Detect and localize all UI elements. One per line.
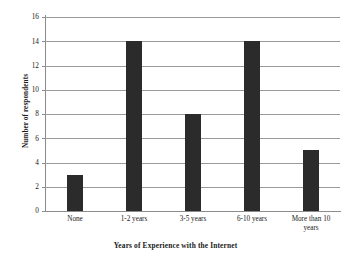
y-tick-label-2: 2 — [22, 183, 39, 190]
bar-chart: Number of respondents 16 14 12 10 8 6 — [0, 0, 351, 265]
tick-10 — [42, 90, 45, 91]
tick-6 — [42, 138, 45, 139]
y-tick-label-12: 12 — [22, 62, 39, 69]
x-tick-label-1-2-years-line1: 1-2 years — [121, 215, 148, 223]
y-tick-label-14: 14 — [22, 38, 39, 45]
plot-area: 16 14 12 10 8 6 4 2 — [45, 17, 340, 211]
bar-1-2-years — [126, 41, 142, 211]
gridline-14: 14 — [45, 41, 340, 42]
tick-2 — [42, 187, 45, 188]
tick-12 — [42, 66, 45, 67]
y-tick-label-8: 8 — [22, 110, 39, 117]
y-tick-label-16: 16 — [22, 13, 39, 20]
tick-14 — [42, 41, 45, 42]
y-tick-label-10: 10 — [22, 86, 39, 93]
bar-3-5-years — [185, 114, 201, 211]
x-tick-label-more-than-10-years-line2: years — [303, 224, 318, 232]
tick-0 — [42, 211, 45, 212]
tick-4 — [42, 163, 45, 164]
y-tick-label-0: 0 — [22, 207, 39, 214]
gridline-12: 12 — [45, 66, 340, 67]
x-tick-label-none-line1: None — [67, 215, 83, 223]
x-tick-label-more-than-10-years-line1: More than 10 — [292, 215, 331, 223]
bar-6-10-years — [244, 41, 260, 211]
gridline-0: 0 — [45, 211, 340, 212]
gridline-16: 16 — [45, 17, 340, 18]
tick-16 — [42, 17, 45, 18]
x-tick-label-3-5-years-line1: 3-5 years — [180, 215, 207, 223]
x-axis-title: Years of Experience with the Internet — [0, 241, 351, 250]
y-tick-label-4: 4 — [22, 159, 39, 166]
x-tick-label-6-10-years-line1: 6-10 years — [237, 215, 267, 223]
tick-8 — [42, 114, 45, 115]
x-tick-label-more-than-10-years: More than 10 years — [276, 215, 346, 233]
y-tick-label-6: 6 — [22, 135, 39, 142]
bar-more-than-10-years — [303, 150, 319, 211]
gridline-10: 10 — [45, 90, 340, 91]
bar-none — [67, 175, 83, 211]
